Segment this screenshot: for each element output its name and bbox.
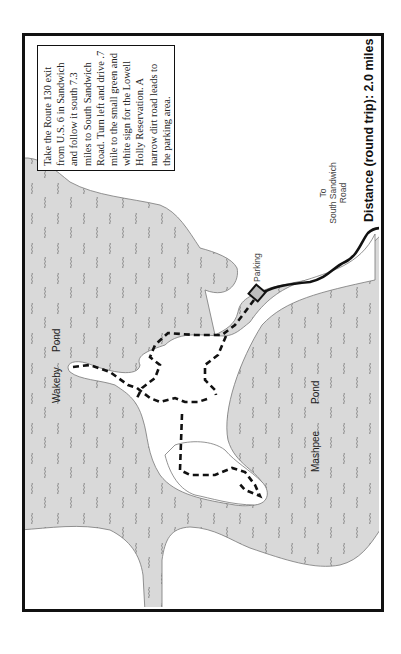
directions-text: Take the Route 130 exit from U.S. 6 in S…: [39, 47, 173, 169]
label-parking: Parking: [252, 253, 262, 282]
label-mashpee-pond: Pond: [310, 381, 321, 404]
directions-box: Take the Route 130 exit from U.S. 6 in S…: [37, 45, 175, 171]
label-to-road-line1: To: [318, 158, 328, 228]
label-to-road-line3: Road: [338, 158, 348, 228]
label-to-road: To South Sandwich Road: [318, 158, 348, 228]
label-to-road-line2: South Sandwich: [328, 158, 338, 228]
label-mashpee: Mashpee: [310, 431, 321, 472]
label-wakeby: Wakeby: [51, 367, 62, 403]
label-wakeby-pond: Pond: [51, 329, 62, 352]
distance-label: Distance (round trip): 2.0 miles: [362, 39, 376, 222]
